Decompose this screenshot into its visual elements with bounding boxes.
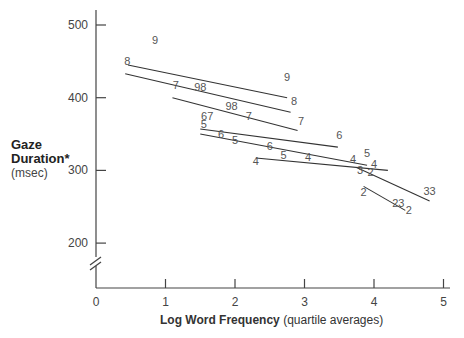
point-label: 6 — [267, 140, 273, 152]
point-label: 2 — [361, 186, 367, 198]
point-label: 98 — [194, 81, 206, 93]
y-tick-label: 400 — [68, 91, 88, 105]
point-label: 2 — [406, 204, 412, 216]
point-label: 4 — [305, 151, 311, 163]
point-label: 5 — [232, 134, 238, 146]
x-tick-label: 3 — [301, 295, 308, 309]
point-label: 33 — [423, 185, 435, 197]
point-label: 98 — [225, 100, 237, 112]
x-tick-label: 5 — [440, 295, 447, 309]
y-tick-label: 500 — [68, 18, 88, 32]
y-axis-unit: (msec) — [11, 166, 48, 180]
point-labels: 99887987987675656654445342223233 — [124, 34, 436, 216]
x-axis-title-main: Log Word Frequency — [160, 313, 280, 327]
point-label: 6 — [336, 129, 342, 141]
point-label: 8 — [124, 55, 130, 67]
point-label: 7 — [173, 79, 179, 91]
x-axis-title: Log Word Frequency (quartile averages) — [160, 313, 383, 327]
point-label: 9 — [284, 71, 290, 83]
y-axis-title-line2: Duration* — [11, 152, 70, 166]
x-axis-title-suffix: (quartile averages) — [283, 313, 383, 327]
point-label: 7 — [298, 115, 304, 127]
chart-canvas: 200300400500012345 998879879876756566544… — [0, 0, 464, 338]
data-lines — [125, 65, 429, 210]
point-label: 2 — [367, 166, 373, 178]
point-label: 6 — [218, 128, 224, 140]
point-label: 5 — [281, 149, 287, 161]
point-label: 23 — [392, 197, 404, 209]
point-label: 4 — [253, 155, 259, 167]
point-label: 4 — [350, 153, 356, 165]
y-tick-label: 300 — [68, 163, 88, 177]
point-label: 8 — [291, 95, 297, 107]
x-tick-label: 1 — [162, 295, 169, 309]
point-label: 3 — [357, 164, 363, 176]
y-tick-label: 200 — [68, 236, 88, 250]
point-label: 5 — [201, 118, 207, 130]
point-label: 9 — [152, 34, 158, 46]
y-axis-title-line1: Gaze — [11, 138, 70, 152]
point-label: 7 — [246, 110, 252, 122]
x-tick-label: 4 — [371, 295, 378, 309]
x-tick-label: 0 — [93, 295, 100, 309]
x-tick-label: 2 — [232, 295, 239, 309]
point-label: 5 — [364, 147, 370, 159]
y-axis-title: Gaze Duration* — [11, 138, 70, 166]
